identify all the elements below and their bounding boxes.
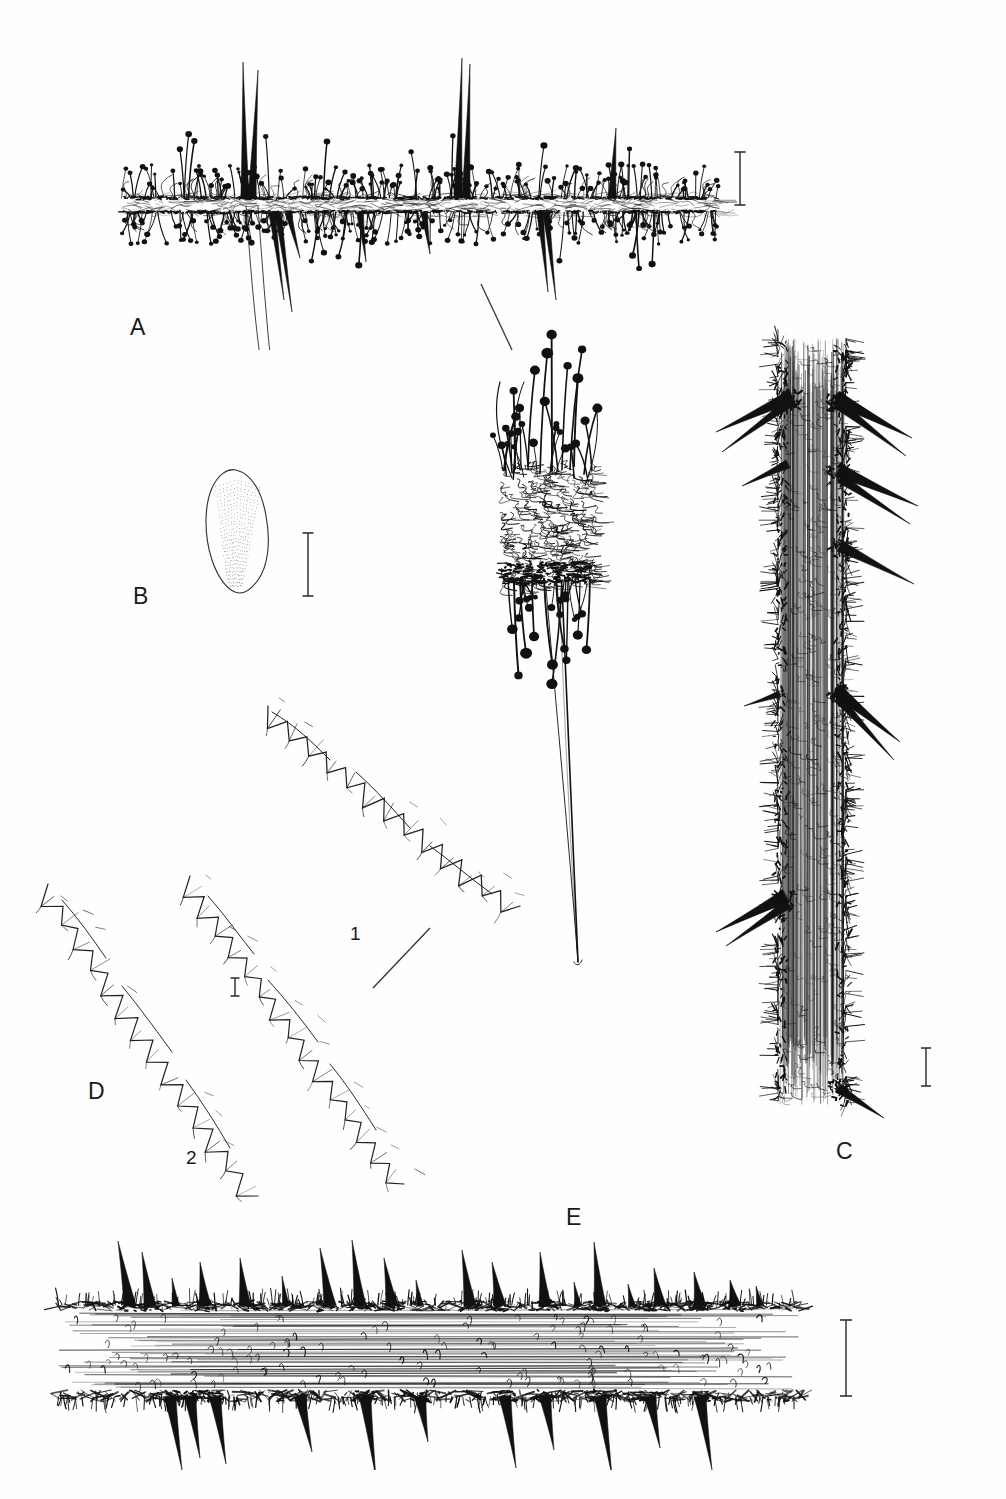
leader-line-d <box>373 928 430 988</box>
scale-bar-c <box>921 1048 931 1086</box>
panel-label-e: E <box>566 1206 582 1229</box>
panel-d-sublabel-2: 2 <box>186 1148 197 1167</box>
illustration-plate: A B C D 1 2 E <box>0 0 1006 1499</box>
panel-label-d: D <box>88 1080 105 1103</box>
leader-line-a <box>481 284 512 350</box>
scale-bar-d <box>231 978 240 996</box>
panel-c-artwork <box>716 326 918 1118</box>
panel-d-sublabel-1: 1 <box>350 924 361 943</box>
panel-label-b: B <box>133 585 149 608</box>
flower-cluster-artwork <box>490 330 614 965</box>
scale-bar-a <box>735 152 746 205</box>
panel-e-artwork <box>45 1240 813 1478</box>
panel-label-c: C <box>836 1140 853 1163</box>
panel-label-a: A <box>130 316 146 339</box>
panel-d-artwork <box>36 698 524 1202</box>
scale-bar-b <box>303 533 314 596</box>
panel-b-artwork <box>206 470 268 593</box>
scale-bar-e <box>840 1320 852 1396</box>
leader-lines <box>373 284 512 988</box>
panel-a-artwork <box>118 58 738 374</box>
plate-artwork <box>0 0 1006 1499</box>
